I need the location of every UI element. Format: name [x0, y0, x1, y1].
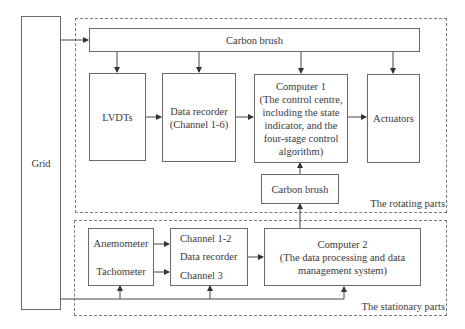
computer2-line2: (The data processing and data	[280, 251, 405, 264]
data-recorder-stationary-label: Data recorder	[180, 250, 237, 263]
data-recorder-stationary-box: Channel 1-2 Data recorder Channel 3	[170, 228, 248, 286]
channel-3-label: Channel 3	[180, 269, 223, 282]
data-recorder-line1: Data recorder	[170, 105, 227, 118]
stationary-parts-label: The stationary parts	[362, 301, 445, 312]
tachometer-label: Tachometer	[96, 265, 145, 278]
sensors-box: Anemometer Tachometer	[88, 228, 154, 286]
computer1-line1: Computer 1	[276, 80, 326, 93]
computer2-line3: management system)	[298, 264, 387, 277]
carbon-brush-top-box: Carbon brush	[89, 28, 420, 52]
carbon-brush-top-label: Carbon brush	[226, 34, 283, 47]
computer1-line5: four-stage control	[264, 132, 339, 145]
channel-1-2-label: Channel 1-2	[180, 232, 232, 245]
anemometer-label: Anemometer	[94, 237, 149, 250]
computer1-line6: algorithm)	[279, 145, 323, 158]
lvdts-label: LVDTs	[102, 111, 132, 124]
computer1-line3: including the state	[263, 106, 340, 119]
computer1-box: Computer 1 (The control centre, includin…	[254, 74, 348, 163]
computer2-line1: Computer 2	[318, 238, 368, 251]
grid-box: Grid	[21, 16, 61, 310]
data-recorder-line2: (Channel 1-6)	[170, 118, 229, 131]
lvdts-box: LVDTs	[89, 73, 146, 161]
data-recorder-rotating-box: Data recorder (Channel 1-6)	[162, 73, 236, 162]
actuators-box: Actuators	[367, 74, 420, 163]
computer1-line2: (The control centre,	[259, 93, 342, 106]
carbon-brush-mid-label: Carbon brush	[272, 183, 329, 196]
computer2-box: Computer 2 (The data processing and data…	[264, 228, 421, 286]
rotating-parts-label: The rotating parts	[370, 198, 445, 209]
actuators-label: Actuators	[373, 112, 414, 125]
carbon-brush-mid-box: Carbon brush	[261, 174, 339, 204]
computer1-line4: indicator, and the	[265, 119, 338, 132]
grid-label: Grid	[31, 157, 50, 170]
